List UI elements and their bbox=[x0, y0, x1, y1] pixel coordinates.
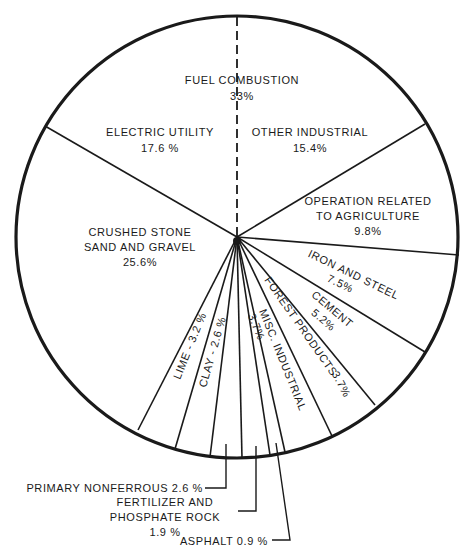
label-fuel-combustion-pct: 33% bbox=[230, 90, 254, 102]
leader-primary-nonferrous bbox=[205, 444, 226, 488]
label-fertilizer-line2: PHOSPHATE ROCK bbox=[110, 511, 220, 523]
label-asphalt: ASPHALT 0.9 % bbox=[180, 535, 268, 547]
pie-chart: FUEL COMBUSTION 33% ELECTRIC UTILITY 17.… bbox=[0, 0, 472, 558]
label-crushed-line1: CRUSHED STONE bbox=[89, 226, 192, 238]
label-fertilizer-line1: FERTILIZER AND bbox=[117, 496, 214, 508]
leader-fertilizer bbox=[238, 446, 256, 511]
label-fertilizer-pct: 1.9 % bbox=[149, 526, 180, 538]
leader-asphalt bbox=[272, 443, 290, 540]
label-agriculture-pct: 9.8% bbox=[354, 225, 381, 237]
label-other-industrial-pct: 15.4% bbox=[293, 142, 327, 154]
label-fuel-combustion: FUEL COMBUSTION bbox=[185, 74, 299, 86]
label-other-industrial: OTHER INDUSTRIAL bbox=[252, 126, 369, 138]
label-electric-utility: ELECTRIC UTILITY bbox=[106, 126, 214, 138]
label-electric-utility-pct: 17.6 % bbox=[141, 142, 179, 154]
label-primary-nonferrous: PRIMARY NONFERROUS 2.6 % bbox=[26, 482, 203, 494]
label-agriculture-line1: OPERATION RELATED bbox=[304, 195, 431, 207]
divider-agriculture-iron bbox=[237, 237, 459, 255]
pie-hub bbox=[233, 237, 241, 245]
label-crushed-pct: 25.6% bbox=[123, 256, 157, 268]
label-crushed-line2: SAND AND GRAVEL bbox=[84, 241, 196, 253]
label-agriculture-line2: TO AGRICULTURE bbox=[316, 210, 420, 222]
